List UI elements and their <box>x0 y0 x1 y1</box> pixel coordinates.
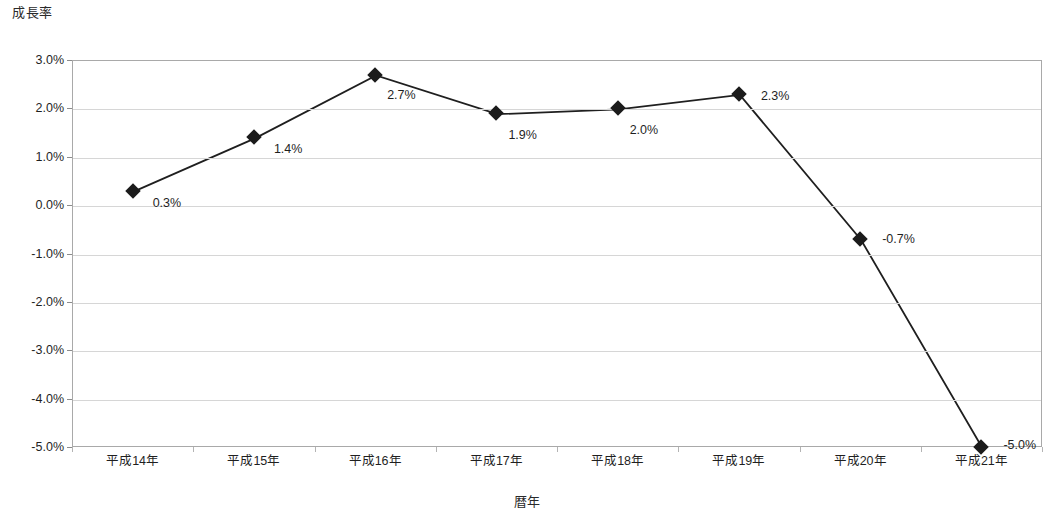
x-tick-mark <box>72 447 73 452</box>
x-tick-mark <box>193 447 194 452</box>
x-tick-mark <box>557 447 558 452</box>
y-tick-mark <box>67 108 72 109</box>
data-point-label: 1.9% <box>508 129 537 142</box>
gridline <box>73 255 1041 256</box>
gridline <box>73 303 1041 304</box>
y-tick-mark <box>67 157 72 158</box>
x-tick-mark <box>315 447 316 452</box>
y-tick-label: -3.0% <box>4 344 64 357</box>
x-tick-label: 平成18年 <box>591 455 644 468</box>
x-axis-title: 暦年 <box>0 495 1054 508</box>
y-tick-mark <box>67 254 72 255</box>
x-tick-label: 平成16年 <box>349 455 402 468</box>
x-tick-mark <box>800 447 801 452</box>
y-tick-label: 1.0% <box>4 151 64 164</box>
data-point-label: 0.3% <box>153 197 182 210</box>
gridline <box>73 206 1041 207</box>
x-tick-mark <box>436 447 437 452</box>
x-tick-label: 平成14年 <box>106 455 159 468</box>
y-tick-label: -1.0% <box>4 248 64 261</box>
gridline <box>73 400 1041 401</box>
data-point-label: 2.0% <box>630 124 659 137</box>
y-tick-label: -5.0% <box>4 441 64 454</box>
y-tick-label: 2.0% <box>4 102 64 115</box>
gridline <box>73 351 1041 352</box>
x-tick-label: 平成17年 <box>470 455 523 468</box>
x-tick-label: 平成19年 <box>712 455 765 468</box>
growth-rate-line-chart: 成長率 3.0%2.0%1.0%0.0%-1.0%-2.0%-3.0%-4.0%… <box>0 0 1054 522</box>
y-tick-label: 0.0% <box>4 199 64 212</box>
y-tick-mark <box>67 399 72 400</box>
gridline <box>73 158 1041 159</box>
y-tick-label: 3.0% <box>4 54 64 67</box>
data-point-label: -5.0% <box>1003 439 1036 452</box>
x-tick-mark <box>1042 447 1043 452</box>
y-tick-mark <box>67 350 72 351</box>
y-tick-mark <box>67 302 72 303</box>
y-axis-title: 成長率 <box>12 6 53 19</box>
data-point-label: 2.7% <box>387 89 416 102</box>
y-tick-label: -2.0% <box>4 296 64 309</box>
x-tick-label: 平成15年 <box>227 455 280 468</box>
x-tick-mark <box>678 447 679 452</box>
y-tick-mark <box>67 205 72 206</box>
data-point-label: 2.3% <box>761 90 790 103</box>
x-tick-mark <box>921 447 922 452</box>
data-point-label: -0.7% <box>882 233 915 246</box>
plot-area <box>72 60 1042 447</box>
x-tick-label: 平成21年 <box>955 455 1008 468</box>
x-tick-label: 平成20年 <box>834 455 887 468</box>
gridline <box>73 109 1041 110</box>
y-tick-mark <box>67 60 72 61</box>
y-tick-label: -4.0% <box>4 393 64 406</box>
data-point-label: 1.4% <box>274 143 303 156</box>
